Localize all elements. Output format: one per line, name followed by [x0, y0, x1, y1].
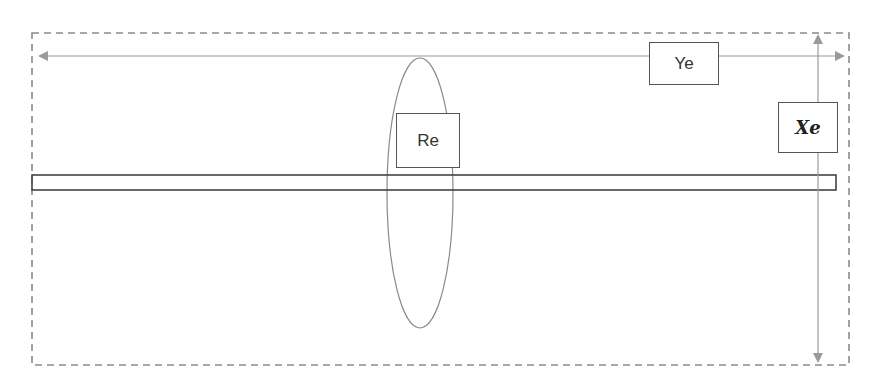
re-label: Re	[417, 131, 439, 151]
xe-label: Xe	[795, 117, 820, 138]
ye-label: Ye	[674, 54, 693, 74]
ye-label-box: Ye	[649, 42, 719, 85]
ellipse-outline	[387, 58, 453, 328]
dashed-frame	[32, 33, 849, 365]
re-label-box: Re	[396, 113, 460, 168]
xe-label-box: Xe	[778, 102, 838, 153]
diagram-canvas	[0, 0, 877, 392]
horizontal-bar	[32, 175, 836, 190]
